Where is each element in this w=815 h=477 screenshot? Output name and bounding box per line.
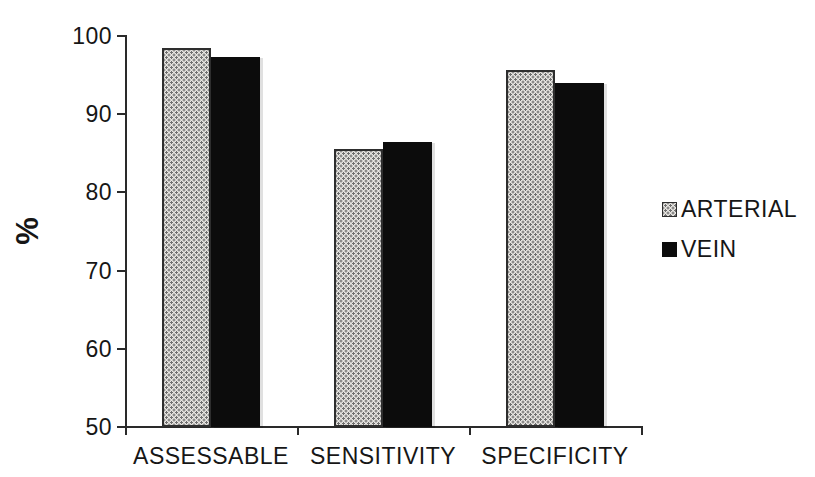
y-tick-label: 50 [48,415,112,439]
bar-vein-assessable [211,57,260,427]
y-tick-label: 60 [48,337,112,361]
y-tick-label: 70 [48,259,112,283]
bar-arterial-assessable [162,48,211,427]
grouped-bar-chart: % 1009080706050 ASSESSABLESENSITIVITYSPE… [0,0,815,477]
bar-vein-specificity [555,83,604,427]
legend-swatch-dotted-icon [662,202,677,217]
legend: ARTERIALVEIN [662,196,797,276]
legend-item-arterial: ARTERIAL [662,196,797,223]
bar-arterial-sensitivity [334,149,383,427]
y-tick-mark [117,35,126,37]
bar-vein-sensitivity [383,142,432,427]
x-tick-mark [641,426,643,435]
y-tick-label: 100 [48,24,112,48]
legend-label: ARTERIAL [681,196,797,223]
bar-arterial-specificity [506,70,555,427]
legend-item-vein: VEIN [662,236,797,263]
y-axis-line [125,35,127,428]
x-tick-mark [469,426,471,435]
y-axis-title: % [11,201,45,261]
legend-swatch-solid-icon [662,242,677,257]
y-tick-mark [117,270,126,272]
y-axis-title-text: % [10,217,45,245]
y-tick-mark [117,348,126,350]
x-tick-mark [297,426,299,435]
y-tick-mark [117,191,126,193]
y-tick-label: 80 [48,180,112,204]
legend-label: VEIN [681,236,737,263]
y-tick-mark [117,113,126,115]
x-tick-mark [125,426,127,435]
y-tick-label: 90 [48,102,112,126]
category-label-specificity: SPECIFICITY [445,443,665,470]
